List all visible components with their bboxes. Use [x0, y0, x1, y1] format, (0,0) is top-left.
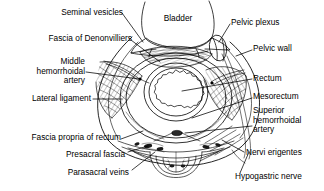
label-fascia-propria-of-rectum: Fascia propria of rectum [0, 133, 121, 143]
label-mesorectum: Mesorectum [253, 92, 324, 102]
label-fascia-of-denonvilliers: Fascia of Denonvilliers [0, 34, 132, 44]
leader-pelvic-wall [236, 50, 252, 56]
label-presacral-fascia: Presacral fascia [0, 150, 125, 160]
leader-fascia-propria [121, 131, 143, 139]
label-middle-hemorrhoidal-artery: Middle hemorrhoidal artery [0, 57, 85, 86]
leader-pelvic-plexus [219, 24, 230, 42]
label-hypogastric-nerve: Hypogastric nerve [235, 172, 324, 182]
label-superior-hemorrhoidal-artery-line3: artery [253, 125, 324, 135]
bladder-outline [142, 1, 215, 49]
rectal-wall-outline [144, 63, 208, 121]
label-pelvic-wall: Pelvic wall [253, 44, 323, 54]
presacral-fascia-and-sacrum [118, 141, 234, 178]
fascia-of-denonvilliers-band [140, 46, 212, 67]
label-superior-hemorrhoidal-artery: Superior hemorrhoidal artery [253, 106, 324, 135]
label-lateral-ligament: Lateral ligament [0, 94, 91, 104]
label-bladder: Bladder [150, 14, 206, 24]
label-seminal-vesicles: Seminal vesicles [0, 8, 123, 18]
rectal-lumen-outline [154, 70, 204, 108]
leader-nervi-erigentes [222, 140, 244, 152]
label-pelvic-plexus: Pelvic plexus [231, 18, 323, 28]
label-rectum: Rectum [253, 74, 323, 84]
lateral-ligament-left [96, 62, 146, 118]
label-nervi-erigentes: Nervi erigentes [246, 148, 324, 158]
pelvic-anatomy-figure: Seminal vesicles Bladder Pelvic plexus F… [0, 0, 324, 191]
label-parasacral-veins: Parasacral veins [0, 168, 129, 178]
label-middle-hemorrhoidal-artery-line3: artery [0, 76, 85, 86]
